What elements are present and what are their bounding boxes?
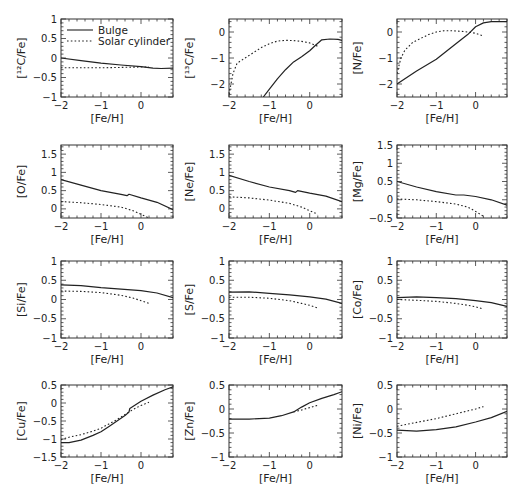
y-tick-label: 1.5 — [41, 149, 57, 160]
series-line-bulge — [397, 182, 507, 206]
x-tick-label: 0 — [472, 100, 478, 111]
plot-area — [397, 182, 507, 217]
y-tick-label: −1 — [378, 53, 393, 64]
axes-frame — [397, 145, 507, 218]
axes-frame — [61, 145, 173, 218]
x-axis-label: [Fe/H] — [259, 353, 292, 366]
y-axis-label: [N/Fe] — [351, 41, 364, 74]
x-tick-label: 0 — [307, 221, 313, 232]
x-tick-label: −2 — [222, 100, 237, 111]
panel-s: −2−10−1−0.500.51[Fe/H][S/Fe] — [183, 256, 342, 367]
series-line-solar-cylinder — [397, 199, 483, 216]
axes-frame — [229, 385, 342, 457]
series-line-solar-cylinder — [61, 291, 149, 303]
x-axis-label: [Fe/H] — [90, 472, 123, 485]
x-tick-label: 0 — [472, 460, 478, 471]
legend-label: Solar cylinder — [98, 35, 171, 47]
x-axis-label: [Fe/H] — [259, 233, 292, 246]
plot-area — [229, 39, 342, 97]
y-tick-label: −2 — [210, 79, 225, 90]
y-tick-label: 0.5 — [41, 33, 57, 44]
x-tick-label: −1 — [94, 221, 109, 232]
y-axis-label: [¹³C/Fe] — [183, 37, 196, 78]
y-tick-label: 0 — [387, 404, 393, 415]
y-tick-label: 0 — [51, 203, 57, 214]
y-tick-label: −0.5 — [201, 428, 225, 439]
x-tick-label: 0 — [138, 221, 144, 232]
y-tick-label: 0.5 — [41, 380, 57, 391]
y-tick-label: −1 — [42, 333, 57, 344]
y-tick-label: −0.5 — [33, 72, 57, 83]
y-tick-label: 1 — [219, 256, 225, 267]
axes-frame — [397, 261, 507, 338]
panel-si: −2−10−1−0.500.51[Fe/H][Si/Fe] — [15, 256, 173, 367]
y-tick-label: 0.5 — [377, 380, 393, 391]
y-tick-label: 1.5 — [209, 149, 225, 160]
y-tick-label: 0.5 — [209, 380, 225, 391]
plot-area — [61, 387, 173, 443]
series-line-bulge — [61, 285, 173, 298]
y-axis-label: [¹²C/Fe] — [15, 37, 28, 78]
plot-area — [61, 285, 173, 304]
x-tick-label: −1 — [429, 100, 444, 111]
x-axis-label: [Fe/H] — [90, 353, 123, 366]
y-axis-label: [O/Fe] — [15, 165, 28, 198]
x-tick-label: −1 — [429, 460, 444, 471]
x-tick-label: −1 — [94, 100, 109, 111]
x-axis-label: [Fe/H] — [259, 472, 292, 485]
panel-mg: −2−10−0.500.511.5[Fe/H][Mg/Fe] — [351, 140, 507, 247]
x-axis-label: [Fe/H] — [425, 233, 458, 246]
x-tick-label: −1 — [262, 341, 277, 352]
y-axis-label: [Ne/Fe] — [183, 162, 196, 202]
y-tick-label: 0 — [387, 194, 393, 205]
panel-ne: −2−1000.511.5[Fe/H][Ne/Fe] — [183, 145, 342, 246]
y-tick-label: 0 — [387, 27, 393, 38]
y-tick-label: −0.5 — [33, 313, 57, 324]
x-tick-label: −1 — [94, 341, 109, 352]
y-axis-label: [Zn/Fe] — [183, 401, 196, 440]
y-tick-label: 1 — [219, 167, 225, 178]
y-axis-label: [Si/Fe] — [15, 282, 28, 317]
y-axis-label: [Co/Fe] — [351, 280, 364, 319]
y-tick-label: −1.5 — [33, 452, 57, 463]
x-tick-label: −1 — [429, 341, 444, 352]
series-line-solar-cylinder — [61, 402, 149, 439]
series-line-bulge — [61, 58, 173, 69]
y-tick-label: 1 — [387, 158, 393, 169]
plot-area — [397, 407, 507, 432]
y-tick-label: −1 — [378, 452, 393, 463]
plot-area — [61, 58, 173, 69]
x-tick-label: −1 — [429, 221, 444, 232]
y-tick-label: 0.5 — [209, 275, 225, 286]
axes-frame — [229, 145, 342, 218]
y-tick-label: 1 — [51, 14, 57, 25]
series-line-bulge — [229, 392, 342, 419]
x-tick-label: 0 — [472, 341, 478, 352]
series-line-solar-cylinder — [397, 31, 483, 74]
plot-area — [397, 22, 507, 84]
plot-area — [229, 175, 342, 214]
x-tick-label: 0 — [307, 341, 313, 352]
series-line-bulge — [397, 411, 507, 431]
plot-area — [229, 392, 342, 419]
y-tick-label: −1 — [210, 452, 225, 463]
y-tick-label: 1 — [387, 256, 393, 267]
x-tick-label: −1 — [94, 460, 109, 471]
series-line-solar-cylinder — [229, 40, 318, 94]
series-line-solar-cylinder — [229, 297, 318, 308]
x-tick-label: −1 — [262, 221, 277, 232]
y-tick-label: 1 — [51, 167, 57, 178]
x-axis-label: [Fe/H] — [259, 112, 292, 125]
series-line-bulge — [61, 387, 173, 443]
y-tick-label: 0 — [219, 294, 225, 305]
plot-area — [61, 180, 173, 218]
y-tick-label: 0 — [51, 294, 57, 305]
x-tick-label: 0 — [138, 460, 144, 471]
x-tick-label: −2 — [54, 221, 69, 232]
x-tick-label: 0 — [307, 100, 313, 111]
series-line-bulge — [229, 175, 342, 201]
x-axis-label: [Fe/H] — [425, 353, 458, 366]
y-tick-label: −0.5 — [369, 313, 393, 324]
y-tick-label: 0.5 — [377, 275, 393, 286]
series-line-solar-cylinder — [61, 202, 149, 218]
